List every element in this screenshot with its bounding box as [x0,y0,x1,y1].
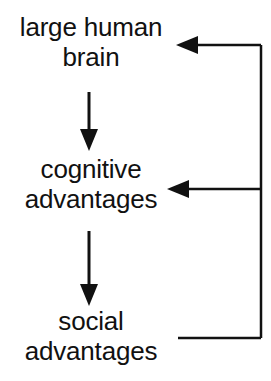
arrow-cognitive-to-social [80,231,98,306]
arrow-brain-to-cognitive [80,92,98,151]
arrow-feedback-to-cognitive [167,180,261,198]
feedback-loop-path [178,45,261,338]
arrow-feedback-to-brain [176,36,261,54]
flowchart-diagram: large human brain cognitive advantages s… [0,0,271,381]
diagram-edges [0,0,271,381]
